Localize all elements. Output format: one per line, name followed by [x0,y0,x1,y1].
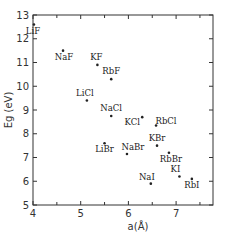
point-marker [110,78,113,81]
point-marker [141,116,144,119]
x-tick-label: 5 [78,208,84,219]
point-label: KBr [149,133,167,143]
data-point: LiBr [95,142,115,154]
point-label: RbBr [160,154,183,164]
data-point: RbBr [160,151,183,163]
x-tick-label: 7 [173,208,179,219]
data-point: KCl [125,116,144,127]
y-axis-label: Eg (eV) [3,92,14,129]
y-tick-label: 7 [23,152,29,163]
point-label: KCl [125,117,141,127]
data-point: RbI [184,178,199,190]
point-label: LiCl [76,88,94,98]
data-point: LiF [26,23,40,35]
data-point: RbCl [155,116,177,126]
data-points: LiFNaFKFRbFLiClNaClKClRbClLiBrNaBrKBrRbB… [26,23,200,190]
y-tick-label: 8 [23,128,29,139]
data-point: LiCl [76,88,94,102]
data-point: KF [90,52,102,66]
x-tick-label: 6 [125,208,131,219]
scatter-chart: 45675678910111213 LiFNaFKFRbFLiClNaClKCl… [0,0,226,240]
point-marker [150,182,153,185]
y-tick-label: 11 [16,57,29,68]
y-tick-label: 9 [23,105,29,116]
data-point: NaI [139,172,155,185]
point-marker [178,175,181,178]
data-point: NaCl [100,103,122,117]
point-marker [156,144,159,147]
y-tick-label: 13 [16,10,29,21]
point-label: RbCl [156,116,177,126]
point-marker [86,99,89,102]
x-axis-label: a(Å) [128,220,149,232]
point-label: RbI [184,180,199,190]
point-label: KF [90,52,102,62]
point-label: RbF [102,66,120,76]
data-point: KI [171,164,181,178]
y-tick-label: 5 [23,200,29,211]
data-point: KBr [149,133,167,147]
point-label: NaF [55,52,74,62]
point-marker [110,115,113,118]
plot-frame [33,15,213,205]
x-tick-label: 4 [30,208,36,219]
point-label: LiBr [95,144,115,154]
y-tick-label: 6 [23,176,29,187]
point-label: NaI [139,172,155,182]
point-label: NaBr [122,142,146,152]
point-marker [96,64,99,67]
point-label: NaCl [100,103,122,113]
data-point: NaF [55,49,74,61]
data-point: NaBr [122,142,146,155]
data-point: RbF [102,66,120,80]
y-tick-label: 10 [16,81,29,92]
point-label: KI [171,164,181,174]
point-label: LiF [26,26,40,36]
point-marker [126,153,129,156]
